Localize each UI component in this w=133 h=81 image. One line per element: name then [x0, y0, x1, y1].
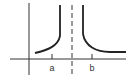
- right-branch-curve: [83, 5, 126, 52]
- label-a: a: [50, 63, 55, 73]
- function-graph: a b: [0, 0, 133, 81]
- left-branch-curve: [35, 5, 60, 53]
- label-b: b: [90, 63, 95, 73]
